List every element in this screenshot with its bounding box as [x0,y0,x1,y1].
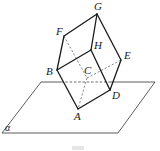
vertex-label-A: A [73,110,81,122]
vertex-label-G: G [94,0,102,12]
edge-GE [97,14,121,60]
vertex-label-E: E [123,49,131,61]
edge-BA [57,70,78,109]
vertex-label-H: H [93,39,103,51]
vertex-label-D: D [111,89,120,101]
cube-on-plane-diagram: α G F H E B C D A [0,0,160,151]
vertex-label-F: F [55,25,63,37]
caption-remnant [72,146,84,150]
edge-HD [91,50,110,90]
vertex-label-B: B [46,65,53,77]
edge-ED [110,60,121,90]
plane-label: α [5,122,11,133]
vertex-label-C: C [84,64,92,76]
edge-AD [78,90,110,109]
edge-FB [57,36,64,70]
plane-alpha: α [2,82,155,133]
plane-right-edge [118,82,155,133]
edge-GF [64,14,97,36]
